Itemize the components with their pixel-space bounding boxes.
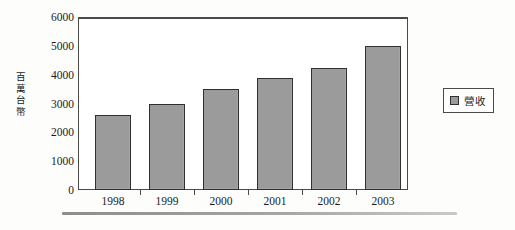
y-axis-tick-labels: 0 1000 2000 3000 4000 5000 6000 [28, 0, 74, 230]
x-tick-label-1998: 1998 [83, 195, 143, 207]
y-tick-label-4000: 4000 [30, 69, 74, 81]
bottom-divider [62, 212, 457, 215]
bar-2002 [311, 68, 347, 191]
bar-2003 [365, 46, 401, 190]
y-tick-label-1000: 1000 [30, 155, 74, 167]
legend-swatch-icon [450, 96, 459, 105]
y-axis-title-char-3: 台 [13, 95, 29, 107]
legend: 營收 [443, 88, 494, 113]
bar-2000 [203, 89, 239, 190]
x-tick-label-2000: 2000 [191, 195, 251, 207]
x-tick-label-1999: 1999 [137, 195, 197, 207]
y-axis-title: 百 萬 台 幣 [13, 72, 29, 118]
y-tick-label-2000: 2000 [30, 126, 74, 138]
y-tick-label-0: 0 [30, 184, 74, 196]
x-tick-label-2002: 2002 [299, 195, 359, 207]
y-axis-title-char-4: 幣 [13, 107, 29, 119]
bar-1998 [95, 115, 131, 191]
y-tick-label-6000: 6000 [30, 11, 74, 23]
y-axis-title-char-1: 百 [13, 72, 29, 84]
bar-1999 [149, 104, 185, 190]
x-tick-label-2003: 2003 [353, 195, 413, 207]
y-tick-label-5000: 5000 [30, 40, 74, 52]
y-tick-label-3000: 3000 [30, 98, 74, 110]
x-tick-label-2001: 2001 [245, 195, 305, 207]
y-axis-title-char-2: 萬 [13, 84, 29, 96]
bar-chart-figure: 百 萬 台 幣 0 1000 2000 3000 4000 5000 6000 … [0, 0, 515, 230]
legend-label-revenue: 營收 [464, 93, 486, 108]
bar-2001 [257, 78, 293, 190]
